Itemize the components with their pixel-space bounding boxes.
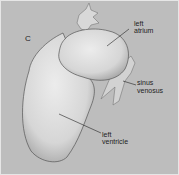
label-left-atrium-line2: atrium (134, 27, 153, 34)
label-left-ventricle-line2: ventricle (102, 138, 128, 145)
figure-panel: C left atrium sinus venosus left ventric… (0, 0, 179, 175)
great-vessels (77, 3, 99, 31)
label-sinus-venosus-line2: venosus (137, 87, 163, 94)
label-left-atrium-line1: left (134, 20, 143, 27)
label-left-ventricle-line1: left (102, 131, 111, 138)
leader-line-sinus (123, 81, 136, 85)
label-sinus-venosus-line1: sinus (137, 79, 153, 86)
panel-letter: C (25, 34, 31, 43)
